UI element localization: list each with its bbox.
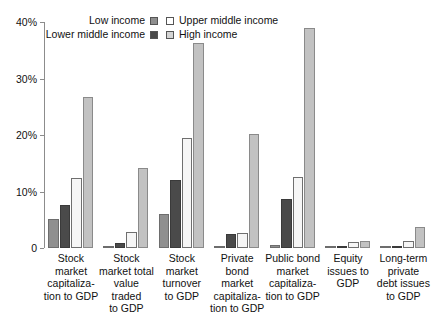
y-axis-line [44, 22, 45, 248]
y-axis-tick-label: 20% [16, 129, 37, 141]
x-axis-label-line: market [154, 265, 209, 278]
x-axis-label-line: debt issues [376, 277, 431, 290]
bar-group [103, 22, 149, 248]
bar [415, 227, 426, 248]
x-axis-label-line: capitaliza- [210, 290, 265, 303]
bar [380, 246, 391, 248]
y-axis-tick-label: 0 [31, 242, 37, 254]
x-axis-label-line: capitaliza- [44, 277, 99, 290]
bar [182, 138, 193, 248]
x-axis-category-label: Stockmarket totalvalue tradedto GDP [99, 252, 154, 315]
bar-group [214, 22, 260, 248]
bar [138, 168, 149, 248]
x-axis-label-line: tion to GDP [265, 290, 320, 303]
bar [281, 199, 292, 248]
bar-group [325, 22, 371, 248]
bar [293, 177, 304, 248]
x-axis-label-line: private [376, 265, 431, 278]
y-axis-tick-label: 40% [16, 16, 37, 28]
bar [214, 246, 225, 248]
x-axis-label-line: market [265, 265, 320, 278]
bar-group [380, 22, 426, 248]
x-axis-label-line: market [44, 265, 99, 278]
bar [249, 134, 260, 248]
x-axis-label-line: to GDP [99, 302, 154, 315]
bar [237, 233, 248, 248]
bar [193, 43, 204, 248]
y-axis-tick [40, 135, 44, 136]
y-axis-tick [40, 79, 44, 80]
x-axis-category-labels: Stockmarketcapitaliza-tion to GDPStockma… [44, 252, 440, 314]
y-axis-tick [40, 248, 44, 249]
x-axis-label-line: Stock [99, 252, 154, 265]
bar [270, 245, 281, 248]
bar [103, 246, 114, 248]
bar-group [159, 22, 205, 248]
bar [325, 246, 336, 248]
x-axis-label-line: Private bond [210, 252, 265, 277]
bar [337, 246, 348, 248]
bar [392, 246, 403, 248]
x-axis-label-line: market total [99, 265, 154, 278]
x-axis-category-label: Stockmarketturnoverto GDP [154, 252, 209, 302]
y-axis-tick [40, 192, 44, 193]
plot-area [44, 22, 440, 248]
x-axis-category-label: Public bondmarketcapitaliza-tion to GDP [265, 252, 320, 302]
x-axis-label-line: turnover [154, 277, 209, 290]
x-axis-category-label: Stockmarketcapitaliza-tion to GDP [44, 252, 99, 302]
x-axis-category-label: Private bondmarketcapitaliza-tion to GDP [210, 252, 265, 315]
x-axis-label-line: Public bond [265, 252, 320, 265]
x-axis-label-line: market [210, 277, 265, 290]
x-axis-label-line: tion to GDP [210, 302, 265, 315]
bar [403, 241, 414, 248]
y-axis-tick [40, 22, 44, 23]
x-axis-category-label: Long-termprivatedebt issuesto GDP [376, 252, 431, 302]
x-axis-label-line: to GDP [376, 290, 431, 303]
x-axis-label-line: GDP [321, 277, 376, 290]
bar [48, 219, 59, 248]
bar [348, 242, 359, 248]
x-axis-label-line: tion to GDP [44, 290, 99, 303]
bar [71, 178, 82, 248]
x-axis-label-line: Long-term [376, 252, 431, 265]
bar [126, 232, 137, 248]
bar [226, 234, 237, 248]
y-axis-tick-label: 30% [16, 73, 37, 85]
y-axis-tick-label: 10% [16, 186, 37, 198]
bar [170, 180, 181, 248]
bar [360, 241, 371, 248]
x-axis-category-label: Equityissues toGDP [321, 252, 376, 290]
x-axis-label-line: to GDP [154, 290, 209, 303]
bar [83, 97, 94, 248]
x-axis-label-line: issues to [321, 265, 376, 278]
x-axis-label-line: capitaliza- [265, 277, 320, 290]
x-axis-label-line: Stock [154, 252, 209, 265]
bar-group [48, 22, 94, 248]
x-axis-label-line: Stock [44, 252, 99, 265]
bar-group [270, 22, 316, 248]
x-axis-label-line: value traded [99, 277, 154, 302]
bar-chart: Low income Upper middle income Lower mid… [0, 0, 446, 316]
bar [60, 205, 71, 248]
bar [115, 243, 126, 248]
bar [304, 28, 315, 248]
bar [159, 214, 170, 248]
x-axis-label-line: Equity [321, 252, 376, 265]
